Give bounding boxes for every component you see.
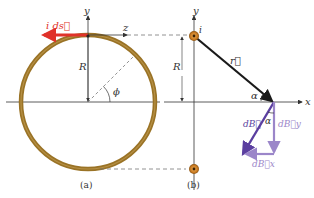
r-vector-arrow — [194, 36, 272, 101]
x-axis-label: x — [305, 96, 311, 107]
y-axis-label: y — [83, 5, 90, 16]
z-axis-label: z — [122, 22, 129, 33]
current-dot-bottom — [189, 164, 199, 174]
panel-a: y z i ds⃗ R ϕ (a) — [6, 5, 188, 190]
current-dot-top — [189, 31, 199, 41]
caption-b: (b) — [187, 180, 200, 190]
current-label: i — [199, 25, 202, 35]
dBy-label: dB⃗y — [278, 119, 302, 129]
alpha-label-1: α — [251, 90, 258, 101]
dBx-label: dB⃗x — [252, 159, 275, 169]
phi-label: ϕ — [113, 86, 120, 97]
phi-arc — [104, 87, 111, 103]
r-vector-label: r⃗ — [230, 55, 241, 66]
caption-a: (a) — [80, 180, 92, 190]
radius-label: R — [78, 61, 87, 72]
current-element-label: i ds⃗ — [46, 20, 70, 31]
y-axis-label-b: y — [192, 5, 199, 16]
radius-label-b: R — [172, 61, 181, 72]
biot-savart-ring-diagram: y z i ds⃗ R ϕ (a) — [0, 0, 314, 198]
panel-b: y x i R r⃗ α α dB⃗ dB⃗y dB⃗x (b) — [164, 5, 311, 190]
alpha-label-2: α — [265, 116, 271, 126]
dB-label: dB⃗ — [243, 119, 261, 129]
angle-radius-dashed — [88, 55, 135, 102]
